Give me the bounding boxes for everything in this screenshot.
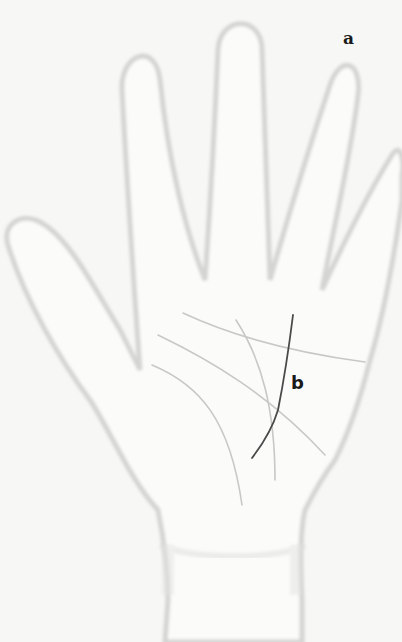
hand-illustration: [0, 0, 402, 642]
label-a: a: [343, 30, 354, 47]
palm-diagram: a b: [0, 0, 402, 642]
hand-outline: [7, 24, 402, 642]
label-b: b: [291, 374, 304, 392]
